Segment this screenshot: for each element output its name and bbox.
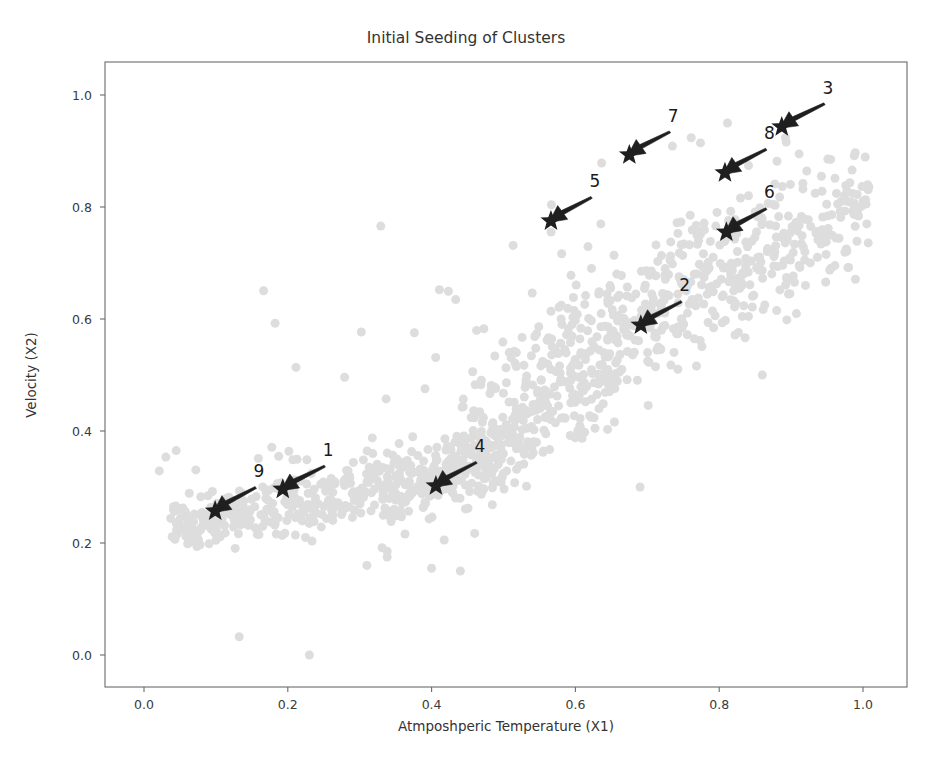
scatter-point <box>522 482 531 491</box>
scatter-point <box>645 358 654 367</box>
scatter-point <box>738 312 747 321</box>
scatter-point <box>748 303 757 312</box>
scatter-point <box>784 212 793 221</box>
scatter-point <box>587 316 596 325</box>
scatter-point <box>828 231 837 240</box>
scatter-point-outlier <box>851 203 860 212</box>
plot-area-background <box>105 62 907 687</box>
scatter-point <box>520 393 529 402</box>
scatter-point-outlier <box>235 632 244 641</box>
scatter-point-outlier <box>547 228 556 237</box>
scatter-point <box>644 401 653 410</box>
scatter-point <box>782 315 791 324</box>
scatter-point <box>775 193 784 202</box>
scatter-point-outlier <box>368 449 377 458</box>
scatter-point <box>861 153 870 162</box>
scatter-point <box>532 438 541 447</box>
scatter-point-outlier <box>292 363 301 372</box>
scatter-point-outlier <box>696 138 705 147</box>
scatter-point <box>690 270 699 279</box>
scatter-point <box>615 291 624 300</box>
scatter-point <box>606 284 615 293</box>
scatter-point <box>440 536 449 545</box>
scatter-point <box>812 227 821 236</box>
scatter-point <box>623 375 632 384</box>
scatter-point <box>459 395 468 404</box>
scatter-point <box>561 377 570 386</box>
scatter-point-outlier <box>274 452 283 461</box>
scatter-point <box>737 281 746 290</box>
scatter-point <box>531 344 540 353</box>
scatter-point <box>399 458 408 467</box>
scatter-point <box>566 364 575 373</box>
scatter-point <box>539 446 548 455</box>
scatter-point <box>571 355 580 364</box>
scatter-point-outlier <box>302 455 311 464</box>
scatter-point <box>543 336 552 345</box>
scatter-point <box>470 529 479 538</box>
scatter-point <box>204 491 213 500</box>
x-tick-label: 0.4 <box>422 697 442 712</box>
seed-label-9: 9 <box>254 461 265 481</box>
scatter-point <box>424 445 433 454</box>
scatter-point <box>368 433 377 442</box>
scatter-point <box>488 500 497 509</box>
scatter-point <box>468 367 477 376</box>
scatter-point <box>853 190 862 199</box>
y-tick-label: 0.8 <box>72 200 92 215</box>
scatter-point <box>537 376 546 385</box>
scatter-point <box>637 306 646 315</box>
scatter-point <box>795 263 804 272</box>
scatter-point-outlier <box>174 505 183 514</box>
scatter-point <box>383 464 392 473</box>
x-tick-label: 0.8 <box>709 697 729 712</box>
scatter-point <box>673 229 682 238</box>
scatter-point <box>536 396 545 405</box>
scatter-point <box>230 521 239 530</box>
scatter-point <box>763 244 772 253</box>
scatter-point <box>744 191 753 200</box>
scatter-point <box>614 311 623 320</box>
seed-label-2: 2 <box>679 275 690 295</box>
scatter-point <box>697 342 706 351</box>
scatter-point <box>241 507 250 516</box>
scatter-point <box>349 458 358 467</box>
seed-label-4: 4 <box>474 436 485 456</box>
scatter-point-outlier <box>171 535 180 544</box>
scatter-point <box>842 244 851 253</box>
scatter-point <box>460 438 469 447</box>
seed-label-6: 6 <box>764 182 775 202</box>
scatter-point <box>569 293 578 302</box>
scatter-point <box>605 371 614 380</box>
seed-label-3: 3 <box>822 78 833 98</box>
scatter-point <box>519 361 528 370</box>
scatter-point-outlier <box>444 287 453 296</box>
y-tick-label: 0.2 <box>72 536 92 551</box>
scatter-point <box>583 326 592 335</box>
scatter-point <box>522 406 531 415</box>
scatter-point <box>862 219 871 228</box>
scatter-point-outlier <box>668 142 677 151</box>
scatter-point <box>419 457 428 466</box>
scatter-point-outlier <box>772 306 781 315</box>
scatter-point <box>231 544 240 553</box>
scatter-point <box>699 249 708 258</box>
scatter-point <box>619 322 628 331</box>
scatter-point <box>747 257 756 266</box>
scatter-point-outlier <box>797 212 806 221</box>
scatter-point <box>322 514 331 523</box>
scatter-point <box>610 418 619 427</box>
scatter-point <box>645 271 654 280</box>
scatter-point <box>572 281 581 290</box>
scatter-chart: Initial Seeding of Clusters 0.00.20.40.6… <box>0 0 933 766</box>
scatter-point <box>623 347 632 356</box>
scatter-point <box>486 454 495 463</box>
scatter-point <box>502 363 511 372</box>
scatter-point <box>758 274 767 283</box>
scatter-point <box>258 522 267 531</box>
scatter-point-outlier <box>184 535 193 544</box>
scatter-point <box>431 451 440 460</box>
scatter-point <box>778 182 787 191</box>
scatter-point <box>421 499 430 508</box>
scatter-point-outlier <box>376 222 385 231</box>
